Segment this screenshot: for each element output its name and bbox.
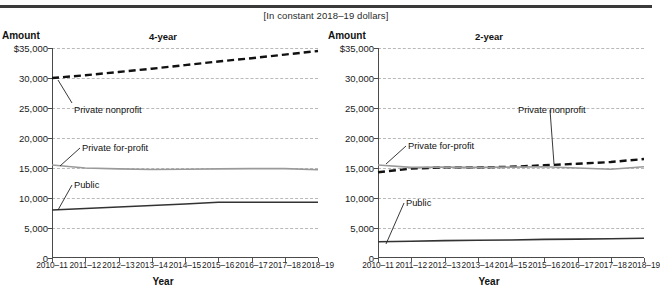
- y-axis-tick-label: 5,000: [24, 223, 48, 234]
- x-axis-tick-label: 2012–13: [102, 260, 134, 270]
- x-axis-tick-label: 2017–18: [269, 260, 301, 270]
- y-axis-tick-label: 20,000: [345, 133, 374, 144]
- y-axis-tick-label: $35,000: [340, 43, 374, 54]
- series-line-public: [378, 238, 644, 242]
- y-axis-tick-label: 30,000: [19, 73, 48, 84]
- x-axis-tick-label: 2017–18: [595, 260, 627, 270]
- top-rule: [0, 5, 652, 8]
- x-axis-tick-label: 2013–14: [462, 260, 494, 270]
- figure-subtitle: [In constant 2018–19 dollars]: [0, 10, 652, 21]
- series-label-private_forprofit: Private for-profit: [408, 141, 474, 151]
- x-axis-tick-label: 2013–14: [136, 260, 168, 270]
- y-axis-tick-label: 20,000: [19, 133, 48, 144]
- x-axis-tick-label: 2011–12: [69, 260, 101, 270]
- y-axis-tick-label: 15,000: [345, 163, 374, 174]
- panel-title-2-year: 2-year: [326, 31, 652, 42]
- series-line-public: [52, 202, 318, 210]
- panel-2-year: Amount 2-year $35,00030,00025,00020,0001…: [326, 30, 652, 296]
- x-axis-tick-label: 2015–16: [528, 260, 560, 270]
- y-axis-tick-label: 25,000: [19, 103, 48, 114]
- series-line-private_forprofit: [52, 165, 318, 170]
- x-axis-title-left: Year: [0, 276, 326, 287]
- series-layer: [378, 48, 644, 258]
- x-axis-title-right: Year: [326, 276, 652, 287]
- series-layer: [52, 48, 318, 258]
- x-axis-tick-label: 2018–19: [628, 260, 660, 270]
- series-line-private_nonprofit: [378, 159, 644, 172]
- x-axis-tick-label: 2015–16: [202, 260, 234, 270]
- series-label-public: Public: [406, 198, 431, 208]
- x-axis-tick-label: 2010–11: [36, 260, 68, 270]
- x-axis-tick-label: 2016–17: [235, 260, 267, 270]
- y-axis-tick-label: $35,000: [14, 43, 48, 54]
- x-axis-tick-label: 2014–15: [169, 260, 201, 270]
- series-line-private_nonprofit: [52, 51, 318, 78]
- series-label-private_forprofit: Private for-profit: [82, 143, 148, 153]
- x-axis-tick-label: 2010–11: [362, 260, 394, 270]
- plot-area-2-year: $35,00030,00025,00020,00015,00010,0005,0…: [378, 48, 644, 258]
- y-axis-tick-label: 10,000: [345, 193, 374, 204]
- x-axis-tick-label: 2016–17: [561, 260, 593, 270]
- y-axis-tick-label: 10,000: [19, 193, 48, 204]
- x-axis-tick-label: 2012–13: [428, 260, 460, 270]
- panel-4-year: Amount 4-year $35,00030,00025,00020,0001…: [0, 30, 326, 296]
- x-axis-tick-label: 2011–12: [395, 260, 427, 270]
- series-label-private_nonprofit: Private nonprofit: [518, 105, 586, 115]
- series-label-private_nonprofit: Private nonprofit: [74, 105, 142, 115]
- x-axis-tick-label: 2014–15: [495, 260, 527, 270]
- plot-area-4-year: $35,00030,00025,00020,00015,00010,0005,0…: [52, 48, 318, 258]
- y-axis-tick-label: 25,000: [345, 103, 374, 114]
- y-axis-tick-label: 15,000: [19, 163, 48, 174]
- y-axis-tick-label: 30,000: [345, 73, 374, 84]
- y-axis-tick-label: 5,000: [350, 223, 374, 234]
- series-label-public: Public: [74, 180, 99, 190]
- panel-title-4-year: 4-year: [0, 31, 326, 42]
